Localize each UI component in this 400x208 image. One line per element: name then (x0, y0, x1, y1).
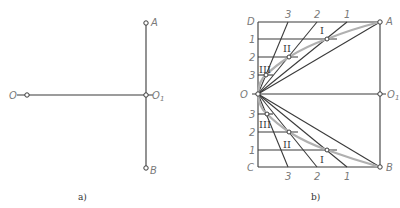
diagram-canvas: O A O1 B a) (0, 0, 400, 208)
top-division-3: 3 (285, 9, 291, 20)
ray-1-top (258, 22, 347, 94)
roman-ii-top: II (283, 43, 291, 54)
left-bottom-division-1: 1 (249, 145, 255, 156)
top-division-1: 1 (344, 9, 350, 20)
ray-3-bottom (258, 94, 288, 167)
caption-a: a) (78, 192, 87, 202)
label-o: O (240, 89, 248, 100)
point-i-bottom (325, 148, 329, 152)
label-o1: O1 (152, 90, 164, 103)
label-d: D (247, 16, 255, 27)
label-a: A (150, 17, 158, 28)
bottom-division-2: 2 (314, 171, 320, 182)
label-b: B (386, 162, 393, 173)
point-ii-bottom (287, 130, 291, 134)
point-o1 (144, 93, 148, 97)
point-o (256, 92, 260, 96)
ray-1-bottom (258, 94, 347, 167)
ray-3-top (258, 22, 288, 94)
roman-iii-bottom: III (259, 119, 271, 130)
left-top-division-2: 2 (249, 52, 255, 63)
point-o1 (378, 92, 382, 96)
left-top-division-1: 1 (249, 34, 255, 45)
label-a: A (385, 16, 393, 27)
roman-iii-top: III (259, 64, 271, 75)
panel-a: O A O1 B a) (9, 17, 164, 202)
left-top-division-3: 3 (249, 70, 255, 81)
point-o (25, 93, 29, 97)
ray-b (258, 94, 380, 167)
label-o: O (9, 90, 17, 101)
panel-b: D A O O1 C B 3 2 1 1 2 3 3 2 1 3 2 1 I I… (240, 9, 399, 202)
point-a (144, 21, 148, 25)
point-ii-top (287, 55, 291, 59)
point-a (378, 20, 382, 24)
bottom-division-3: 3 (285, 171, 291, 182)
label-b: B (150, 165, 157, 176)
point-i-top (325, 37, 329, 41)
point-iii-bottom (265, 112, 269, 116)
label-o1: O1 (387, 89, 399, 102)
roman-ii-bottom: II (283, 139, 291, 150)
point-b (378, 165, 382, 169)
roman-i-top: I (320, 25, 324, 36)
label-c: C (247, 162, 254, 173)
caption-b: b) (311, 192, 320, 202)
bottom-division-1: 1 (344, 171, 350, 182)
point-b (144, 166, 148, 170)
ray-a (258, 22, 380, 94)
left-bottom-division-2: 2 (249, 127, 255, 138)
roman-i-bottom: I (320, 154, 324, 165)
left-bottom-division-3: 3 (249, 109, 255, 120)
top-division-2: 2 (314, 9, 320, 20)
